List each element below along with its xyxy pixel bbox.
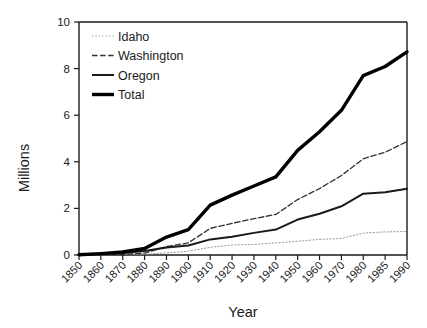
x-tick-label: 1960 xyxy=(299,259,325,285)
chart-legend: IdahoWashingtonOregonTotal xyxy=(92,30,184,103)
x-tick-label: 1985 xyxy=(365,259,391,285)
y-tick-label: 10 xyxy=(57,16,70,28)
y-tick-label: 0 xyxy=(64,249,70,261)
series-line-washington xyxy=(79,142,407,255)
y-axis-title: Millions xyxy=(16,144,32,192)
x-tick-label: 1870 xyxy=(102,259,128,285)
legend-label-oregon: Oregon xyxy=(118,69,160,83)
x-tick-label: 1900 xyxy=(168,259,194,285)
population-line-chart: 0246810 18501860187018801890190019101920… xyxy=(0,0,427,328)
y-tick-label: 6 xyxy=(64,109,70,121)
x-tick-label: 1970 xyxy=(321,259,347,285)
x-tick-label: 1880 xyxy=(124,259,150,285)
x-tick-label: 1910 xyxy=(190,259,216,285)
x-axis-title: Year xyxy=(228,304,257,320)
y-axis-ticks: 0246810 xyxy=(57,16,79,261)
x-tick-label: 1850 xyxy=(59,259,85,285)
x-tick-label: 1920 xyxy=(212,259,238,285)
y-tick-label: 8 xyxy=(64,63,70,75)
y-tick-label: 2 xyxy=(64,202,70,214)
legend-label-total: Total xyxy=(118,88,144,102)
x-tick-label: 1980 xyxy=(343,259,369,285)
y-tick-label: 4 xyxy=(64,156,71,168)
x-tick-label: 1940 xyxy=(255,259,281,285)
chart-figure: 0246810 18501860187018801890190019101920… xyxy=(0,0,427,328)
x-tick-label: 1930 xyxy=(234,259,260,285)
x-axis-ticks: 1850186018701880189019001910192019301940… xyxy=(59,255,413,285)
legend-label-idaho: Idaho xyxy=(118,30,149,44)
x-tick-label: 1890 xyxy=(146,259,172,285)
x-tick-label: 1950 xyxy=(277,259,303,285)
x-tick-label: 1990 xyxy=(387,259,413,285)
legend-label-washington: Washington xyxy=(118,49,184,63)
x-tick-label: 1860 xyxy=(80,259,106,285)
